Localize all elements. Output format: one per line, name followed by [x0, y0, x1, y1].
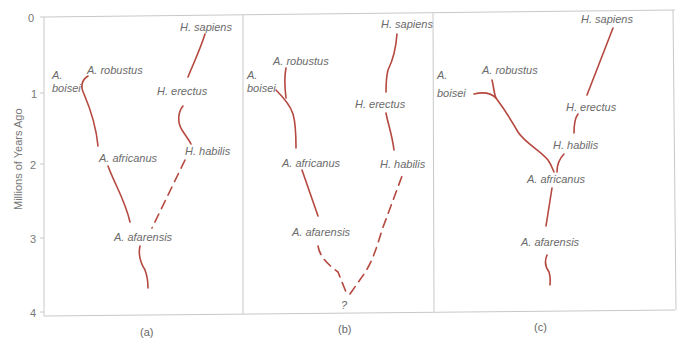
panel-b: A. boisei A. robustus A. africanus A. af… — [246, 18, 433, 335]
label-h-habilis: H. habilis — [185, 145, 231, 157]
branch-afarensis-africanus-c — [546, 188, 552, 226]
label-h-sapiens: H. sapiens — [581, 13, 633, 25]
branch-habilis-dashed-a — [152, 160, 185, 228]
branch-robustus-b — [285, 68, 286, 98]
label-h-sapiens: H. sapiens — [381, 18, 433, 30]
caption-a: (a) — [140, 326, 153, 338]
label-h-erectus: H. erectus — [355, 98, 406, 110]
label-h-sapiens: H. sapiens — [180, 21, 232, 33]
caption-b: (b) — [338, 323, 351, 335]
label-a-boisei-1: A. — [51, 69, 62, 81]
label-a-boisei-1: A. — [436, 69, 447, 81]
branch-africanus-afarensis-b — [302, 170, 318, 216]
branch-sapiens-a — [188, 34, 205, 77]
panel-c: A. boisei A. robustus A. africanus A. af… — [436, 13, 633, 333]
label-a-afarensis: A. afarensis — [291, 226, 351, 238]
branch-africanus-habilis-c — [557, 154, 564, 172]
branch-root-habilis-dashed-b — [350, 176, 402, 294]
tick-label-3: 3 — [30, 233, 36, 245]
label-a-boisei-1: A. — [246, 69, 257, 81]
label-a-boisei-2: boisei — [247, 82, 276, 94]
label-a-robustus: A. robustus — [272, 55, 329, 67]
hominid-phylogeny-figure: 0 1 2 3 4 Millions of Years Ago A. boise… — [0, 0, 690, 348]
panel-a: A. boisei A. robustus A. africanus A. af… — [51, 21, 232, 338]
branch-habilis-erectus-c — [574, 114, 578, 133]
branch-erectus-sapiens-c — [587, 28, 613, 95]
branch-boisei-c — [474, 93, 496, 98]
label-a-robustus: A. robustus — [86, 64, 143, 76]
divider-b-c — [433, 13, 434, 312]
branch-sapiens-b — [386, 34, 397, 92]
label-h-habilis: H. habilis — [553, 139, 599, 151]
tick-label-4: 4 — [30, 307, 36, 319]
branch-afarensis-root-dashed-b — [318, 246, 346, 292]
label-a-boisei-2: boisei — [52, 82, 81, 94]
tick-label-0: 0 — [28, 12, 34, 24]
y-axis-title: Millions of Years Ago — [12, 108, 24, 210]
branch-afarensis-c — [546, 255, 551, 285]
bottom-border — [44, 310, 675, 316]
branch-robust-africanus-c — [496, 98, 554, 172]
branch-robust-a — [82, 76, 98, 146]
label-a-afarensis: A. afarensis — [520, 236, 580, 248]
label-h-erectus: H. erectus — [566, 101, 617, 113]
label-a-africanus: A. africanus — [281, 157, 341, 169]
branch-africanus-a — [108, 166, 130, 222]
branch-afarensis-a — [139, 246, 148, 288]
label-unknown-ancestor: ? — [341, 299, 348, 311]
label-a-africanus: A. africanus — [526, 173, 586, 185]
branch-erectus-habilis-b — [386, 113, 394, 150]
caption-c: (c) — [534, 321, 547, 333]
label-a-boisei-2: boisei — [437, 87, 466, 99]
label-a-robustus: A. robustus — [481, 64, 538, 76]
branch-erectus-a — [179, 106, 191, 144]
label-a-afarensis: A. afarensis — [113, 231, 173, 243]
y-axis: 0 1 2 3 4 Millions of Years Ago — [12, 12, 44, 319]
tick-label-2: 2 — [30, 159, 36, 171]
tick-label-1: 1 — [31, 88, 37, 100]
label-a-africanus: A. africanus — [98, 152, 158, 164]
label-h-habilis: H. habilis — [380, 158, 426, 170]
right-border — [673, 10, 676, 310]
label-h-erectus: H. erectus — [157, 85, 208, 97]
